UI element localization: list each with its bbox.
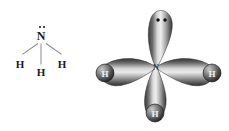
hydrogen-sphere-right: H — [203, 64, 221, 82]
orbital-model-panel: N H H H — [94, 0, 229, 131]
lewis-hydrogen-right-label: H — [55, 59, 69, 70]
lewis-structure-panel: N H H H — [0, 0, 96, 131]
lewis-bond-to-h-right — [46, 43, 62, 55]
chemistry-figure: N H H H — [0, 0, 229, 131]
orbital-nitrogen-label: N — [153, 63, 159, 72]
lewis-nitrogen-label: N — [34, 30, 48, 42]
orbital-lone-pair-dot-2 — [163, 18, 166, 21]
svg-text:H: H — [151, 109, 158, 119]
orbital-lone-pair-dot-1 — [156, 18, 159, 21]
lewis-bond-to-h-left — [22, 43, 38, 55]
lewis-hydrogen-left-label: H — [13, 59, 27, 70]
svg-text:H: H — [208, 69, 215, 79]
hydrogen-sphere-left: H — [96, 64, 114, 82]
lewis-hydrogen-bottom-label: H — [34, 67, 48, 78]
lewis-lone-pair-dot-2 — [43, 26, 45, 28]
lewis-lone-pair-dot-1 — [39, 26, 41, 28]
lewis-bond-to-h-bottom — [41, 44, 42, 65]
sp3-orbital-svg: N H H H — [94, 0, 229, 131]
lobe-lone-pair — [148, 11, 172, 69]
hydrogen-sphere-bottom: H — [146, 104, 164, 122]
svg-text:H: H — [101, 69, 108, 79]
